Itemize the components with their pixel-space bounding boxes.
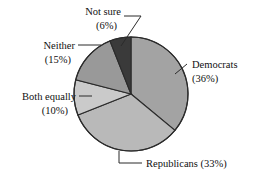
slice-label-both-equally-line1: Both equally	[22, 91, 77, 102]
slice-label-neither-line2: (15%)	[45, 54, 72, 66]
leader-line-republicans	[119, 151, 142, 163]
slice-label-not-sure-line1: Not sure	[85, 6, 121, 17]
slice-label-republicans-line1: Republicans (33%)	[146, 158, 227, 170]
slice-label-democrats-line2: (36%)	[192, 73, 219, 85]
slice-label-both-equally-line2: (10%)	[42, 105, 69, 117]
slice-label-not-sure-line2: (6%)	[96, 20, 117, 32]
slice-label-neither-line1: Neither	[44, 40, 76, 51]
pie-chart-figure: Not sure (6%) Neither (15%) Both equally…	[0, 0, 256, 177]
slice-label-democrats-line1: Democrats	[192, 59, 237, 70]
pie-chart-svg: Not sure (6%) Neither (15%) Both equally…	[0, 0, 256, 177]
